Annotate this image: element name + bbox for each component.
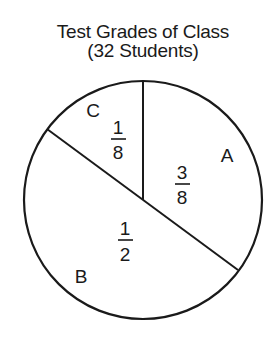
slice-b-letter: B	[75, 266, 88, 287]
slice-b-numerator: 1	[120, 218, 131, 239]
slice-c-denominator: 8	[113, 142, 124, 163]
slice-a-numerator: 3	[177, 162, 188, 183]
slice-c-numerator: 1	[113, 117, 124, 138]
slice-a-letter: A	[221, 145, 234, 166]
slice-c-letter: C	[86, 100, 100, 121]
slice-b-denominator: 2	[120, 244, 131, 265]
slice-a-denominator: 8	[177, 187, 188, 208]
pie-chart: C 1 8 A 3 8 1 2 B	[0, 0, 280, 338]
